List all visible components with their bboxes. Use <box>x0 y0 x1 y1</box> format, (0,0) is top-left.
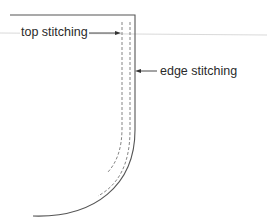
edge-stitching-line <box>98 22 130 196</box>
edge-stitching-label: edge stitching <box>159 65 238 78</box>
top-stitching-label: top stitching <box>20 26 89 39</box>
edge-stitching-arrowhead-icon <box>135 69 141 73</box>
top-stitching-arrowhead-icon <box>115 31 121 35</box>
top-stitching-line <box>108 22 122 172</box>
fabric-outline <box>10 15 135 216</box>
